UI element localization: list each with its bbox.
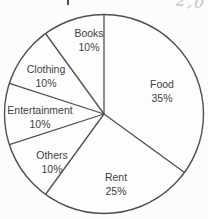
slice-name: Clothing	[27, 62, 66, 76]
slice-label-books: Books 10%	[74, 26, 103, 54]
slice-percent: 25%	[105, 184, 127, 198]
slice-percent: 10%	[7, 117, 72, 131]
slice-label-entertainment: Entertainment 10%	[7, 103, 72, 131]
slice-label-food: Food 35%	[150, 77, 174, 105]
slice-percent: 10%	[27, 76, 66, 90]
slice-percent: 10%	[74, 40, 103, 54]
slice-name: Food	[150, 77, 174, 91]
slice-label-rent: Rent 25%	[105, 170, 127, 198]
slice-name: Entertainment	[7, 103, 72, 117]
slice-label-others: Others 10%	[36, 148, 68, 176]
pie-chart: Food 35% Rent 25% Others 10% Entertainme…	[0, 0, 208, 219]
slice-percent: 10%	[36, 162, 68, 176]
cropped-stroke-mark	[67, 0, 69, 5]
slice-percent: 35%	[150, 91, 174, 105]
slice-name: Rent	[105, 170, 127, 184]
slice-label-clothing: Clothing 10%	[27, 62, 66, 90]
slice-name: Others	[36, 148, 68, 162]
slice-name: Books	[74, 26, 103, 40]
